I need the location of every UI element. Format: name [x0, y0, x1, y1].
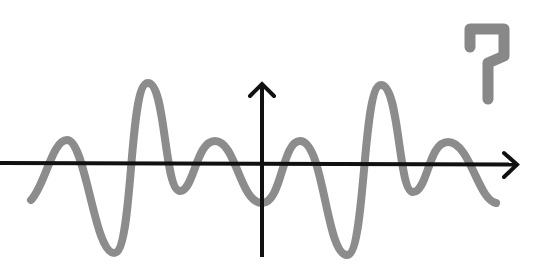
x-axis: [0, 163, 517, 165]
question-mark-icon: [470, 29, 504, 99]
wave-diagram: [0, 0, 556, 275]
